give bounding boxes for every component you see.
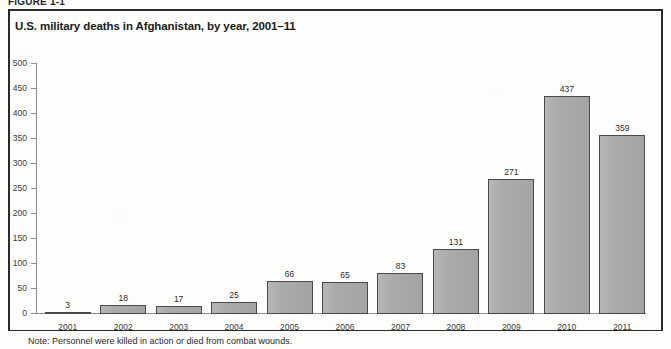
y-tick-label: 350	[13, 133, 27, 143]
frame-top-rule	[8, 9, 663, 11]
figure-page: FIGURE 1-1 U.S. military deaths in Afgha…	[0, 0, 671, 349]
bar-value-label: 25	[229, 290, 238, 300]
bar-value-label: 66	[285, 269, 294, 279]
bar-value-label: 271	[504, 167, 518, 177]
y-tick: 350	[31, 138, 36, 139]
x-axis-label: 2005	[267, 322, 313, 332]
y-tick: 0	[31, 313, 36, 314]
bar-value-label: 17	[174, 294, 183, 304]
bar-value-label: 65	[340, 270, 349, 280]
frame-right-rule	[661, 9, 663, 331]
chart-title: U.S. military deaths in Afghanistan, by …	[15, 20, 296, 32]
bar: 271	[488, 179, 534, 315]
x-axis-label: 2010	[544, 322, 590, 332]
y-tick-label: 450	[13, 83, 27, 93]
x-axis-label: 2006	[322, 322, 368, 332]
frame-left-rule	[8, 9, 10, 331]
x-axis-label: 2003	[156, 322, 202, 332]
y-tick-label: 200	[13, 208, 27, 218]
x-axis-label: 2007	[377, 322, 423, 332]
figure-note: Note: Personnel were killed in action or…	[28, 336, 292, 346]
y-tick-label: 100	[13, 258, 27, 268]
bar-value-label: 3	[65, 300, 70, 310]
y-tick: 500	[31, 63, 36, 64]
y-tick-label: 400	[13, 108, 27, 118]
x-axis-label: 2001	[45, 322, 91, 332]
bar-value-label: 437	[560, 84, 574, 94]
bar-value-label: 131	[449, 237, 463, 247]
y-tick-label: 50	[18, 283, 27, 293]
bar: 66	[267, 281, 313, 314]
plot-area: 050100150200250300350400450500 318172566…	[36, 63, 650, 314]
y-tick-label: 250	[13, 183, 27, 193]
y-tick: 450	[31, 88, 36, 89]
y-tick-label: 150	[13, 233, 27, 243]
x-axis-label: 2004	[211, 322, 257, 332]
x-axis-label: 2002	[100, 322, 146, 332]
bar: 359	[599, 135, 645, 315]
bar: 131	[433, 249, 479, 315]
x-axis-label: 2011	[599, 322, 645, 332]
y-tick-label: 500	[13, 58, 27, 68]
y-tick: 100	[31, 263, 36, 264]
y-tick: 300	[31, 163, 36, 164]
y-tick: 50	[31, 288, 36, 289]
y-tick-label: 0	[22, 308, 27, 318]
bar-value-label: 18	[118, 293, 127, 303]
y-tick: 150	[31, 238, 36, 239]
bar-value-label: 359	[615, 123, 629, 133]
bar: 65	[322, 282, 368, 315]
bar: 437	[544, 96, 590, 315]
y-tick: 400	[31, 113, 36, 114]
figure-caption-partial: FIGURE 1-1	[8, 0, 65, 7]
x-axis-label: 2009	[488, 322, 534, 332]
x-axis-label: 2008	[433, 322, 479, 332]
bar-value-label: 83	[396, 261, 405, 271]
bar: 17	[156, 306, 202, 315]
bar: 83	[377, 273, 423, 315]
y-tick: 200	[31, 213, 36, 214]
bar: 25	[211, 302, 257, 315]
bar: 18	[100, 305, 146, 314]
y-tick: 250	[31, 188, 36, 189]
y-tick-label: 300	[13, 158, 27, 168]
bar: 3	[45, 312, 91, 314]
y-axis-line	[36, 63, 37, 313]
